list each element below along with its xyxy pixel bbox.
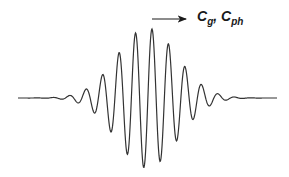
- group-velocity-symbol: C: [197, 8, 207, 24]
- label-separator: ,: [213, 8, 221, 24]
- phase-velocity-symbol: C: [221, 8, 231, 24]
- wave-packet-diagram: [0, 0, 289, 177]
- velocity-label: Cg, Cph: [197, 8, 243, 27]
- wave-packet-curve: [18, 29, 277, 167]
- phase-velocity-subscript: ph: [231, 16, 243, 27]
